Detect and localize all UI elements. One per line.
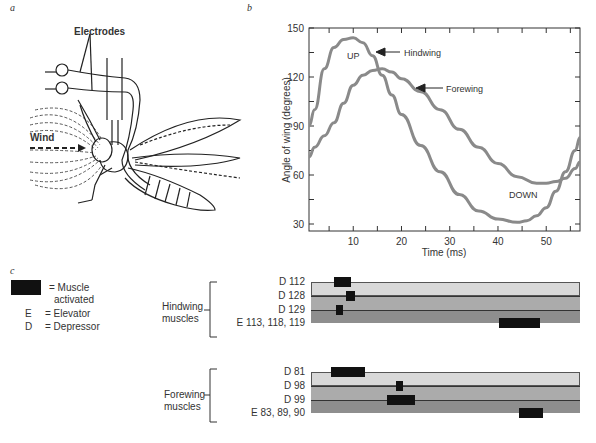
svg-text:UP: UP xyxy=(347,51,360,61)
activation-bar xyxy=(396,381,403,391)
wing-angle-chart: 306090120150 1020304050 UP DOWN Hindwing… xyxy=(250,0,596,260)
legend-activated-swatch xyxy=(11,280,41,295)
panel-letter-c: c xyxy=(10,265,14,276)
svg-text:Angle of wing (degrees): Angle of wing (degrees) xyxy=(281,77,292,183)
activation-bar xyxy=(387,395,416,405)
muscle-row-label: D 128 xyxy=(195,290,305,301)
svg-text:10: 10 xyxy=(348,236,360,247)
svg-text:90: 90 xyxy=(293,121,305,132)
svg-text:DOWN: DOWN xyxy=(509,190,538,200)
muscle-row-label: E 113, 118, 119 xyxy=(195,317,305,328)
muscle-row-label: D 129 xyxy=(195,304,305,315)
muscle-row-label: D 98 xyxy=(195,380,305,391)
svg-text:60: 60 xyxy=(293,170,305,181)
raster-band xyxy=(311,386,580,400)
svg-text:Time (ms): Time (ms) xyxy=(422,247,467,258)
svg-text:20: 20 xyxy=(396,236,408,247)
muscle-row-label: E 83, 89, 90 xyxy=(195,407,305,418)
legend-e-key: E xyxy=(25,308,32,319)
svg-text:30: 30 xyxy=(293,219,305,230)
activation-bar xyxy=(346,291,356,301)
hindwing-group-label-2: muscles xyxy=(162,313,199,324)
insect-illustration: Electrodes Wind xyxy=(0,0,250,225)
electrodes-label: Electrodes xyxy=(74,26,125,37)
legend-d-key: D xyxy=(25,321,32,332)
activation-bar xyxy=(336,305,343,315)
svg-text:30: 30 xyxy=(444,236,456,247)
legend-activated-text-2: activated xyxy=(54,294,94,305)
svg-text:50: 50 xyxy=(541,236,553,247)
svg-text:Forewing: Forewing xyxy=(446,84,483,94)
svg-text:40: 40 xyxy=(492,236,504,247)
activation-bar xyxy=(331,367,365,377)
muscle-row-label: D 99 xyxy=(195,394,305,405)
wind-label: Wind xyxy=(30,132,54,143)
activation-bar xyxy=(334,277,351,287)
muscle-row-label: D 112 xyxy=(195,276,305,287)
activation-bar xyxy=(499,318,540,328)
legend-activated-text: = Muscle xyxy=(49,282,89,293)
legend-e-text: = Elevator xyxy=(45,308,90,319)
legend-d-text: = Depressor xyxy=(45,321,100,332)
muscle-row-label: D 81 xyxy=(195,366,305,377)
svg-text:150: 150 xyxy=(287,23,304,34)
activation-bar xyxy=(519,408,543,418)
svg-text:Hindwing: Hindwing xyxy=(404,48,441,58)
